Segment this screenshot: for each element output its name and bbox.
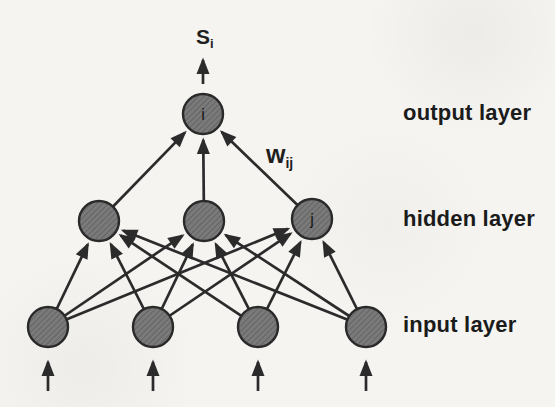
caption-output-layer: output layer [403,100,531,126]
input-node-1 [28,307,68,347]
output-node-letter: i [201,106,205,123]
input-node-4 [346,307,386,347]
hidden-node-letter: j [309,211,314,228]
network-diagram: ij [0,0,555,407]
input-node-3 [238,307,278,347]
signal-symbol: S [196,25,210,48]
caption-input-layer: input layer [403,312,516,338]
input-node-2 [133,307,173,347]
figure-canvas: ij Si wij output layer hidden layer inpu… [0,0,555,407]
caption-hidden-layer: hidden layer [403,206,535,232]
weight-subscript: ij [285,155,293,171]
hidden-node-2 [184,201,224,241]
output-signal-label: Si [196,26,214,47]
hidden-node-1 [79,201,119,241]
weight-label: wij [266,142,293,167]
signal-subscript: i [210,36,214,51]
weight-symbol: w [266,140,285,168]
